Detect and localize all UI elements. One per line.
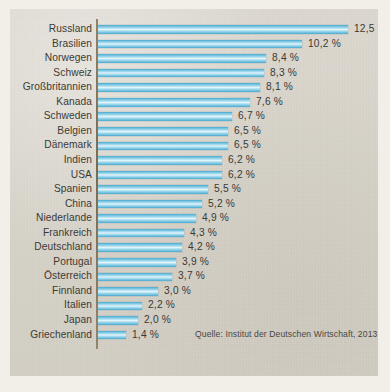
bar — [98, 200, 202, 209]
bar — [98, 302, 142, 311]
bar — [98, 287, 158, 296]
bar — [98, 40, 302, 49]
bar-fill — [98, 229, 184, 238]
category-label: Griechenland — [10, 327, 92, 344]
bar-fill — [98, 142, 228, 151]
bar — [98, 112, 232, 121]
bar-fill — [98, 69, 264, 78]
bar-fill — [98, 156, 222, 165]
bar — [98, 25, 348, 34]
bar-fill — [98, 302, 142, 311]
bar-fill — [98, 83, 260, 92]
bar-fill — [98, 127, 228, 136]
bar — [98, 273, 172, 282]
bar-fill — [98, 273, 172, 282]
bar — [98, 127, 228, 136]
plot-area: Russland12,5 %Brasilien10,2 %Norwegen8,4… — [10, 9, 378, 376]
bar-fill — [98, 287, 158, 296]
bar-fill — [98, 243, 182, 252]
bar — [98, 243, 182, 252]
bar-fill — [98, 200, 202, 209]
bar — [98, 69, 264, 78]
bar — [98, 331, 126, 340]
bar-fill — [98, 112, 232, 121]
bar-fill — [98, 258, 176, 267]
bar-fill — [98, 185, 208, 194]
bar — [98, 156, 222, 165]
bar-fill — [98, 316, 138, 325]
bar-value-label: 1,4 % — [132, 327, 159, 344]
bar — [98, 214, 196, 223]
bar — [98, 171, 222, 180]
bar — [98, 185, 208, 194]
bar-fill — [98, 25, 348, 34]
chart-figure: Russland12,5 %Brasilien10,2 %Norwegen8,4… — [0, 0, 390, 392]
bar — [98, 316, 138, 325]
source-note: Quelle: Institut der Deutschen Wirtschaf… — [195, 329, 377, 339]
bar — [98, 83, 260, 92]
chart-panel: Russland12,5 %Brasilien10,2 %Norwegen8,4… — [10, 9, 378, 376]
bar — [98, 258, 176, 267]
bar — [98, 142, 228, 151]
bar-fill — [98, 171, 222, 180]
bar-fill — [98, 331, 126, 340]
bar-fill — [98, 214, 196, 223]
bar-fill — [98, 40, 302, 49]
bar — [98, 98, 250, 107]
bar-fill — [98, 98, 250, 107]
bar-fill — [98, 54, 266, 63]
bar — [98, 229, 184, 238]
bar — [98, 54, 266, 63]
